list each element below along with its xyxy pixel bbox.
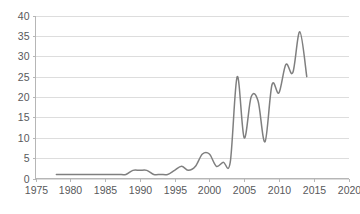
line-chart: 0510152025303540 19751980198519901995200…: [0, 0, 360, 214]
y-tick-label: 20: [18, 91, 30, 103]
data-series: [56, 32, 306, 175]
x-tick-label: 1980: [59, 184, 83, 196]
y-tick-label: 25: [18, 71, 30, 83]
y-tick-label: 30: [18, 50, 30, 62]
chart-canvas: 0510152025303540 19751980198519901995200…: [0, 0, 360, 214]
x-axis-tick-labels: 1975198019851990199520002005201020152020: [25, 184, 360, 196]
x-tick-label: 1975: [25, 184, 49, 196]
x-tick-label: 2015: [303, 184, 327, 196]
y-axis-tick-labels: 0510152025303540: [18, 10, 30, 185]
x-tick-label: 2020: [338, 184, 360, 196]
x-tick-label: 2010: [268, 184, 292, 196]
data-line-1: [56, 32, 306, 175]
y-tick-label: 40: [18, 10, 30, 22]
x-tick-label: 2005: [233, 184, 257, 196]
y-tick-label: 15: [18, 111, 30, 123]
x-tick-label: 2000: [198, 184, 222, 196]
y-tick-label: 10: [18, 132, 30, 144]
x-tick-label: 1995: [164, 184, 188, 196]
x-tick-label: 1990: [129, 184, 153, 196]
y-tick-label: 5: [24, 152, 30, 164]
y-tick-label: 35: [18, 30, 30, 42]
x-tick-label: 1985: [94, 184, 118, 196]
